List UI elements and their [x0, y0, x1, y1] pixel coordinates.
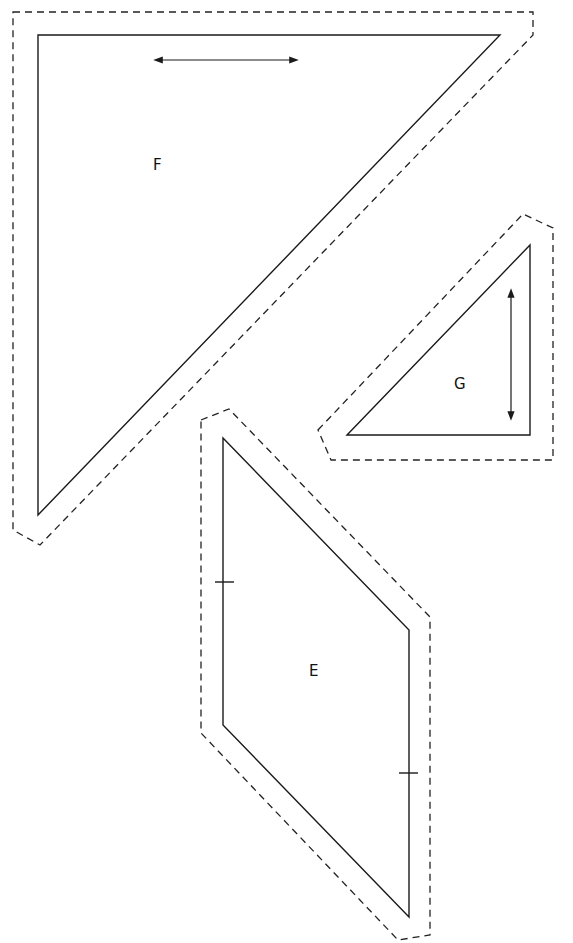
piece-f-cut-line — [38, 35, 500, 515]
piece-f-label: F — [153, 156, 162, 174]
piece-e: E — [201, 409, 430, 940]
piece-g-label: G — [454, 375, 466, 393]
piece-f-seam-allowance — [13, 12, 533, 545]
piece-g: G — [318, 214, 553, 460]
pattern-diagram: F G E — [0, 0, 573, 943]
piece-f: F — [13, 12, 533, 545]
piece-g-cut-line — [347, 245, 530, 435]
piece-e-label: E — [309, 662, 318, 680]
piece-g-seam-allowance — [318, 214, 553, 460]
